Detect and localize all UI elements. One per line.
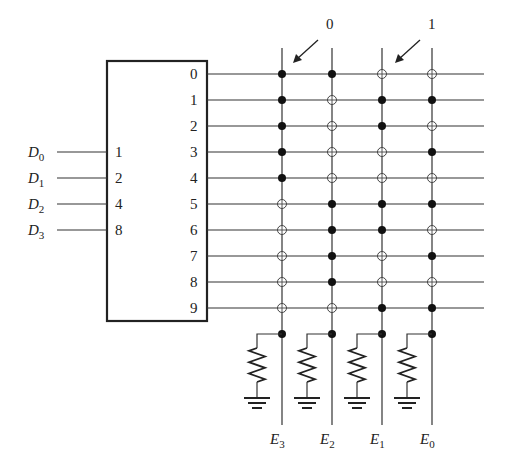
input-label: D1 [27, 170, 44, 189]
node-open [428, 122, 437, 131]
node-filled [328, 278, 336, 286]
input-weight: 1 [115, 144, 123, 160]
node-open [328, 148, 337, 157]
node-filled [328, 226, 336, 234]
input-label: D0 [27, 144, 45, 163]
column-label: E1 [369, 431, 385, 450]
node-filled [278, 122, 286, 130]
node-open [278, 252, 287, 261]
node-filled [378, 96, 386, 104]
annotations: 01 [293, 16, 436, 63]
resistor-icon [399, 348, 415, 382]
node-filled [428, 252, 436, 260]
node-filled [278, 96, 286, 104]
resistor-icon [249, 348, 265, 382]
resistor-icon [349, 348, 365, 382]
ground-icon [394, 398, 420, 408]
decoder-inputs: D01D12D24D38 [27, 144, 123, 241]
node-open [378, 148, 387, 157]
node-filled [328, 70, 336, 78]
node-filled [278, 148, 286, 156]
node-filled [428, 304, 436, 312]
pulldown-resistor [344, 330, 386, 408]
column-label: E3 [269, 431, 285, 450]
ground-icon [294, 398, 320, 408]
node-open [378, 70, 387, 79]
output-label: 8 [190, 274, 198, 290]
output-label: 2 [190, 118, 198, 134]
node-open [428, 174, 437, 183]
input-label: D2 [27, 196, 44, 215]
output-label: 1 [190, 92, 198, 108]
output-label: 7 [190, 248, 198, 264]
node-open [428, 278, 437, 287]
node-open [378, 252, 387, 261]
node-open [278, 278, 287, 287]
node-open [328, 96, 337, 105]
output-label: 3 [190, 144, 198, 160]
pulldown-resistors [244, 330, 436, 408]
output-label: 6 [190, 222, 198, 238]
node-open [428, 226, 437, 235]
node-open [278, 304, 287, 313]
encoder-matrix-diagram: 0123456789 D01D12D24D38 E3E2E1E0 01 [0, 0, 509, 476]
node-filled [378, 226, 386, 234]
node-filled [378, 304, 386, 312]
node-filled [428, 148, 436, 156]
output-label: 5 [190, 196, 198, 212]
output-label: 4 [190, 170, 198, 186]
ground-icon [244, 398, 270, 408]
node-filled [428, 200, 436, 208]
node-filled [378, 200, 386, 208]
node-filled [328, 252, 336, 260]
column-label: E0 [419, 431, 435, 450]
decoder-block: 0123456789 [107, 61, 207, 321]
column-label: E2 [319, 431, 335, 450]
node-open [328, 174, 337, 183]
annotation-label: 1 [428, 16, 436, 32]
input-label: D3 [27, 222, 45, 241]
input-weight: 2 [115, 170, 123, 186]
annotation-arrow: 1 [395, 16, 436, 63]
node-open [278, 226, 287, 235]
pulldown-resistor [244, 330, 286, 408]
column-lines: E3E2E1E0 [269, 48, 435, 450]
annotation-label: 0 [326, 16, 334, 32]
node-filled [278, 174, 286, 182]
node-filled [428, 96, 436, 104]
output-label: 0 [190, 66, 198, 82]
ground-icon [344, 398, 370, 408]
resistor-icon [299, 348, 315, 382]
node-open [328, 304, 337, 313]
output-label: 9 [190, 300, 198, 316]
pulldown-resistor [294, 330, 336, 408]
node-filled [278, 70, 286, 78]
annotation-arrow: 0 [293, 16, 334, 63]
input-weight: 4 [115, 196, 123, 212]
node-filled [328, 200, 336, 208]
node-open [428, 70, 437, 79]
node-filled [378, 122, 386, 130]
row-lines [207, 74, 484, 308]
node-open [378, 278, 387, 287]
node-open [378, 174, 387, 183]
node-open [328, 122, 337, 131]
matrix-nodes [278, 70, 437, 313]
input-weight: 8 [115, 222, 123, 238]
pulldown-resistor [394, 330, 436, 408]
node-open [278, 200, 287, 209]
